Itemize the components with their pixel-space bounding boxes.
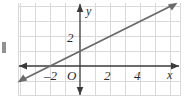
x-tick-label-2: 2 xyxy=(104,69,111,82)
coordinate-graph-figure: –2 O 2 4 2 x y xyxy=(0,0,187,99)
origin-label: O xyxy=(67,69,76,82)
plotted-line-series xyxy=(18,3,178,83)
plot-canvas xyxy=(0,0,187,99)
y-axis-arrow-down xyxy=(77,87,84,95)
x-tick-label-4: 4 xyxy=(134,69,141,82)
y-axis-arrow-up xyxy=(77,4,84,12)
x-tick-label-minus-2: –2 xyxy=(44,69,57,82)
y-axis-label: y xyxy=(86,5,91,17)
y-tick-label-2: 2 xyxy=(67,31,74,44)
page-margin-artifact xyxy=(2,42,6,53)
grid-lines xyxy=(18,3,181,96)
x-axis-label: x xyxy=(167,69,172,81)
